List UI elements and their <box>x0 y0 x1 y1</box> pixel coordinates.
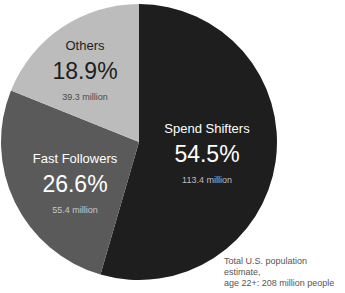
slice-percent-fast-followers: 26.6% <box>42 171 107 197</box>
pie-chart: Spend Shifters54.5%113.4 millionFast Fol… <box>0 0 345 293</box>
slice-label-others: Others <box>65 38 105 53</box>
slice-value-spend-shifters: 113.4 million <box>182 175 232 185</box>
slice-value-others: 39.3 million <box>62 92 108 102</box>
footnote: Total U.S. population estimate, age 22+:… <box>224 256 345 289</box>
footnote-line-1: Total U.S. population estimate, <box>224 256 345 278</box>
slice-value-fast-followers: 55.4 million <box>52 205 98 215</box>
slice-percent-spend-shifters: 54.5% <box>174 141 239 167</box>
slice-label-spend-shifters: Spend Shifters <box>164 121 250 136</box>
slice-percent-others: 18.9% <box>52 58 117 84</box>
slice-label-fast-followers: Fast Followers <box>33 151 118 166</box>
footnote-line-2: age 22+: 208 million people <box>224 278 345 289</box>
